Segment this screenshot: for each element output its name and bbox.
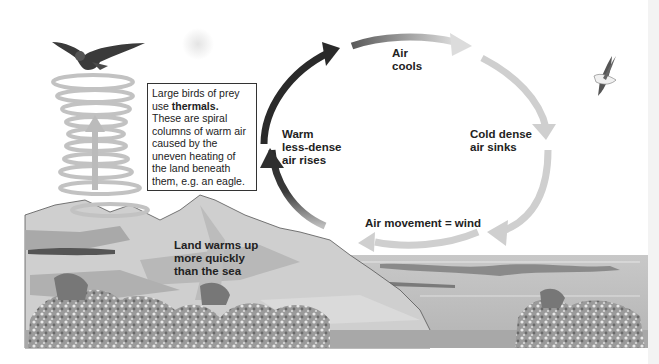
air-sinks-arrow: [482, 58, 546, 128]
label-line: Air: [392, 47, 422, 60]
thermals-term: thermals.: [172, 100, 219, 112]
info-line: caused by the: [152, 137, 252, 150]
label-line: Cold dense: [470, 128, 532, 141]
thermals-info-box: Large birds of prey use thermals. These …: [147, 83, 257, 191]
right-edge: [648, 0, 659, 364]
diagram-canvas: [0, 0, 659, 364]
info-line: These are spiral: [152, 112, 252, 125]
label-line: cools: [392, 60, 422, 73]
air-cools-arrow: [352, 37, 455, 46]
label-line: than the sea: [174, 265, 258, 278]
info-text: use: [152, 100, 172, 112]
label-line: more quickly: [174, 252, 258, 265]
label-air-cools: Air cools: [392, 47, 422, 73]
info-line: them, e.g. an eagle.: [152, 175, 252, 188]
label-line: Air movement = wind: [365, 217, 481, 230]
info-line: use thermals.: [152, 100, 252, 113]
info-line: columns of warm air: [152, 125, 252, 138]
seagull-icon: [594, 56, 616, 96]
label-air-movement-wind: Air movement = wind: [365, 217, 481, 230]
sun-icon: [182, 28, 214, 60]
info-line: the land beneath: [152, 162, 252, 175]
info-line: uneven heating of: [152, 150, 252, 163]
wind-arrow: [375, 232, 478, 245]
label-line: Warm: [282, 128, 341, 141]
label-line: air rises: [282, 154, 341, 167]
label-land-warms: Land warms up more quickly than the sea: [174, 239, 258, 278]
label-cold-dense-air-sinks: Cold dense air sinks: [470, 128, 532, 154]
thermal-spiral-icon: [53, 75, 148, 216]
eagle-icon: [52, 42, 145, 70]
label-line: air sinks: [470, 141, 532, 154]
info-line: Large birds of prey: [152, 87, 252, 100]
label-line: Land warms up: [174, 239, 258, 252]
label-line: less-dense: [282, 141, 341, 154]
label-warm-air-rises: Warm less-dense air rises: [282, 128, 341, 167]
